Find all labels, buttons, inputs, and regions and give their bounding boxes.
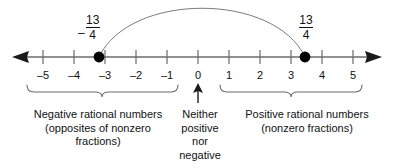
- zero-caption-line-3: nor: [174, 135, 226, 149]
- tick-label--4: –4: [63, 70, 85, 81]
- positive-point: [300, 52, 311, 63]
- positive-label-fraction: 13 4: [299, 14, 313, 41]
- zero-caption: Neither positive nor negative: [174, 108, 226, 162]
- tick-label-0: 0: [187, 70, 209, 81]
- positive-point-label: 13 4: [299, 14, 313, 41]
- tick-label--1: –1: [156, 70, 178, 81]
- negative-caption-line-3: fractions): [4, 135, 192, 149]
- tick-label--2: –2: [125, 70, 147, 81]
- tick-label-4: 4: [311, 70, 333, 81]
- positive-label-numerator: 13: [299, 14, 312, 26]
- positive-caption: Positive rational numbers (nonzero fract…: [222, 108, 392, 135]
- number-line-diagram: – 13 4 13 4 –5 –4 –3 –2 –1 0 1 2 3 4 5 N…: [0, 0, 394, 168]
- positive-label-denominator: 4: [303, 29, 310, 41]
- tick-label-2: 2: [249, 70, 271, 81]
- negative-label-denominator: 4: [89, 29, 96, 41]
- tick-label-3: 3: [280, 70, 302, 81]
- tick-label-5: 5: [342, 70, 364, 81]
- positive-caption-line-2: (nonzero fractions): [222, 122, 392, 136]
- tick-label--5: –5: [32, 70, 54, 81]
- negative-point: [94, 52, 105, 63]
- axis-right-arrowhead: [365, 51, 382, 63]
- zero-caption-line-4: negative: [174, 149, 226, 163]
- tick-label--3: –3: [94, 70, 116, 81]
- negative-point-label: – 13 4: [78, 14, 100, 41]
- axis-left-arrowhead: [12, 51, 29, 63]
- negative-label-sign: –: [78, 27, 85, 39]
- zero-caption-line-2: positive: [174, 122, 226, 136]
- tick-label-1: 1: [218, 70, 240, 81]
- negative-caption: Negative rational numbers (opposites of …: [4, 108, 192, 149]
- negative-label-fraction: 13 4: [86, 14, 100, 41]
- negative-label-numerator: 13: [86, 14, 99, 26]
- opposites-arc: [99, 8, 305, 57]
- zero-up-arrow: [193, 83, 203, 103]
- positive-brace: [220, 85, 362, 97]
- zero-caption-line-1: Neither: [174, 108, 226, 122]
- positive-caption-line-1: Positive rational numbers: [222, 108, 392, 122]
- negative-caption-line-1: Negative rational numbers: [4, 108, 192, 122]
- negative-caption-line-2: (opposites of nonzero: [4, 122, 192, 136]
- negative-brace: [27, 85, 178, 97]
